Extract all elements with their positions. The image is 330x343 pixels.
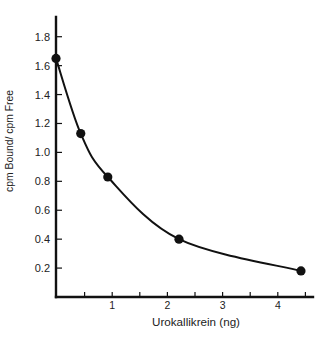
x-tick-label: 3: [220, 299, 226, 311]
x-tick-label: 4: [275, 299, 281, 311]
x-axis-ticks: 1234: [85, 292, 306, 311]
data-markers: [51, 54, 305, 276]
y-tick-label: 0.6: [35, 204, 50, 216]
data-point-marker: [103, 172, 112, 181]
y-tick-label: 1.8: [35, 31, 50, 43]
chart-figure: 0.20.40.60.81.01.21.41.61.8 cpm Bound/ c…: [0, 0, 330, 343]
y-tick-label: 1.2: [35, 117, 50, 129]
x-axis: 1234 Urokallikrein (ng): [56, 292, 313, 328]
y-tick-label: 0.2: [35, 262, 50, 274]
data-point-marker: [76, 129, 85, 138]
y-axis-title: cpm Bound/ cpm Free: [3, 90, 15, 192]
x-axis-title: Urokallikrein (ng): [152, 316, 240, 328]
data-point-marker: [174, 235, 183, 244]
plot-area: [51, 54, 305, 276]
x-tick-label: 2: [164, 299, 170, 311]
x-tick-label: 1: [109, 299, 115, 311]
y-tick-label: 1.6: [35, 60, 50, 72]
data-point-marker: [51, 54, 60, 63]
y-tick-label: 0.8: [35, 175, 50, 187]
y-tick-label: 1.0: [35, 146, 50, 158]
y-tick-label: 1.4: [35, 89, 50, 101]
data-point-marker: [296, 266, 305, 275]
y-tick-label: 0.4: [35, 233, 50, 245]
